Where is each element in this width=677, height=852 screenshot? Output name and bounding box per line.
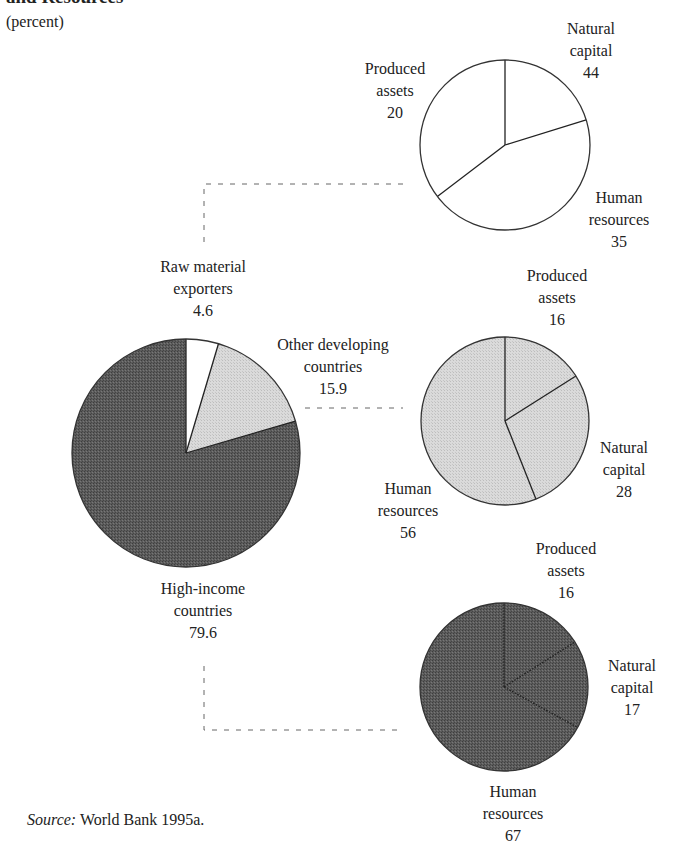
label-other-developing: Other developing countries 15.9	[277, 334, 389, 400]
source-text: World Bank 1995a.	[80, 811, 204, 828]
label-middle-natural: Natural capital 28	[600, 437, 648, 503]
label-top-human: Human resources 35	[589, 187, 649, 253]
connector-top	[204, 184, 403, 247]
sub-pie-high-income	[420, 603, 588, 771]
connector-bottom	[204, 666, 403, 730]
label-high-income: High-income countries 79.6	[161, 578, 245, 644]
main-pie	[72, 339, 300, 567]
source-label: Source:	[27, 811, 76, 828]
source-note: Source: World Bank 1995a.	[27, 811, 204, 829]
sub-pie-other-developing	[421, 337, 589, 505]
label-bottom-human: Human resources 67	[483, 781, 543, 847]
sub-pie-raw-material	[420, 60, 590, 230]
label-bottom-natural: Natural capital 17	[608, 655, 656, 721]
label-bottom-produced: Produced assets 16	[536, 538, 596, 604]
label-middle-human: Human resources 56	[378, 478, 438, 544]
label-top-natural: Natural capital 44	[567, 18, 615, 84]
label-middle-produced: Produced assets 16	[527, 265, 587, 331]
label-raw-material: Raw material exporters 4.6	[160, 256, 246, 322]
label-top-produced: Produced assets 20	[365, 58, 425, 124]
pie-charts	[0, 0, 677, 852]
